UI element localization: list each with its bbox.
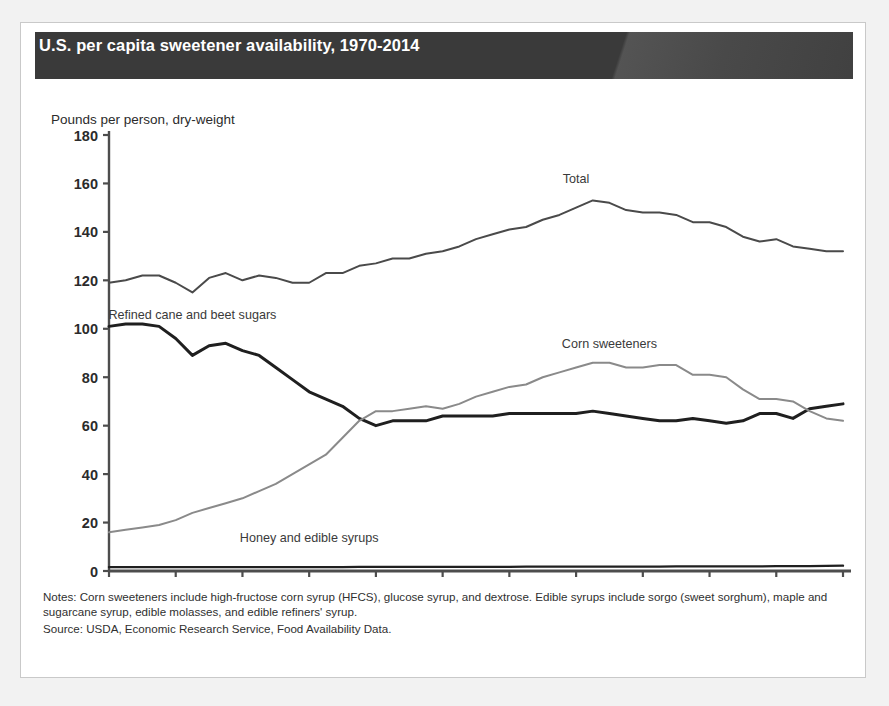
y-tick-label: 40 bbox=[82, 467, 98, 483]
y-tick-label: 0 bbox=[90, 564, 98, 580]
series-label-honey-and-edible-syrups: Honey and edible syrups bbox=[240, 531, 379, 545]
y-tick-label: 180 bbox=[74, 128, 98, 144]
y-tick-label: 60 bbox=[82, 418, 98, 434]
plot-area: 0204060801001201401601801970197419781982… bbox=[21, 23, 867, 679]
chart-notes: Notes: Corn sweeteners include high-fruc… bbox=[43, 589, 843, 636]
page-title: U.S. per capita sweetener availability, … bbox=[39, 36, 420, 55]
y-tick-label: 80 bbox=[82, 370, 98, 386]
series-label-refined-cane-and-beet-sugars: Refined cane and beet sugars bbox=[108, 308, 276, 322]
screenshot-page: U.S. per capita sweetener availability, … bbox=[0, 0, 889, 706]
source-text: Source: USDA, Economic Research Service,… bbox=[43, 621, 843, 636]
series-label-corn-sweeteners: Corn sweeteners bbox=[562, 337, 657, 351]
series-label-total: Total bbox=[563, 172, 590, 186]
chart-card: U.S. per capita sweetener availability, … bbox=[20, 22, 866, 678]
series-line-corn-sweeteners bbox=[109, 363, 843, 533]
series-line-honey-and-edible-syrups bbox=[109, 566, 843, 567]
y-tick-label: 120 bbox=[74, 273, 98, 289]
notes-text: Notes: Corn sweeteners include high-fruc… bbox=[43, 590, 827, 618]
series-line-total bbox=[109, 200, 843, 292]
y-tick-label: 140 bbox=[74, 224, 98, 240]
y-tick-label: 20 bbox=[82, 515, 98, 531]
y-tick-label: 160 bbox=[74, 176, 98, 192]
y-tick-label: 100 bbox=[74, 321, 98, 337]
line-chart-svg: 0204060801001201401601801970197419781982… bbox=[21, 23, 867, 583]
series-line-refined-cane-and-beet-sugars bbox=[109, 324, 843, 426]
